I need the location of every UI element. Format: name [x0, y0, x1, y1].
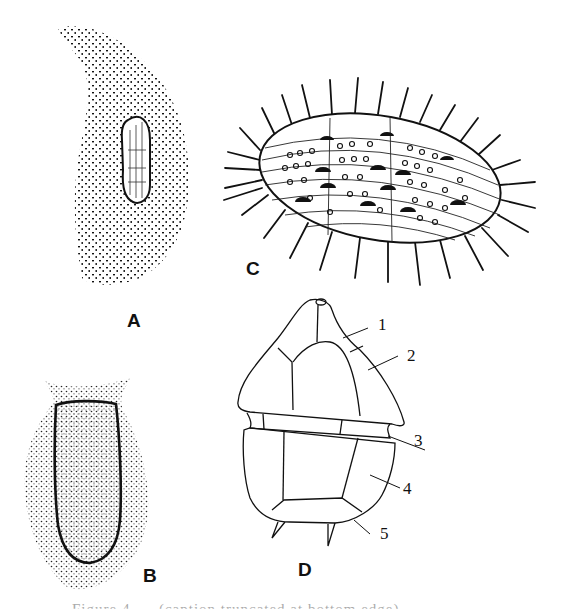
panel-c: C: [220, 60, 560, 310]
cell-body-c: [249, 96, 511, 260]
panel-c-illustration: [220, 60, 560, 310]
caption-text: Figure 4. ... (caption truncated at bott…: [72, 601, 400, 612]
panel-b-illustration: [0, 360, 220, 600]
panel-label-a: A: [127, 311, 141, 330]
figure-caption: Figure 4. ... (caption truncated at bott…: [72, 603, 492, 612]
panel-a-illustration: [0, 0, 220, 340]
panel-d: 1 2 3 4 5 D: [220, 290, 420, 590]
panel-d-illustration: [220, 290, 420, 590]
inner-body-b: [55, 401, 121, 563]
panel-label-d: D: [298, 560, 312, 579]
panel-b: B: [0, 360, 220, 600]
theca-outline: [238, 299, 404, 546]
plate-label-5: 5: [380, 525, 389, 542]
plate-label-2: 2: [407, 347, 416, 364]
plate-label-3-outer: 3: [414, 432, 423, 449]
panel-label-b: B: [143, 566, 157, 585]
panel-a: A: [0, 0, 220, 340]
panel-label-c: C: [246, 259, 260, 278]
plate-label-4: 4: [403, 480, 412, 497]
plate-label-1: 1: [378, 316, 387, 333]
